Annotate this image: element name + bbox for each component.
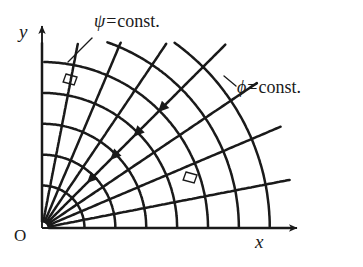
streamline-curve <box>48 127 280 226</box>
equipotential-symbol: ϕ <box>237 77 246 97</box>
flow-net-figure: ψ=const. ϕ=const. y x O <box>0 0 363 267</box>
streamline-curve <box>45 43 121 222</box>
annotation-leader-line <box>224 76 236 86</box>
equipotential-value: const. <box>258 77 301 97</box>
equipotential-curve-group <box>43 42 270 227</box>
streamline-equals-sign: = <box>105 11 117 31</box>
equipotential-label: ϕ=const. <box>237 78 301 96</box>
streamline-symbol: ψ <box>94 11 105 31</box>
x-axis-label: x <box>255 232 263 251</box>
origin-label: O <box>14 227 26 244</box>
y-axis-label: y <box>19 22 27 41</box>
streamline-curve <box>43 44 78 221</box>
streamline-label: ψ=const. <box>94 12 160 30</box>
axis-layer <box>42 26 297 228</box>
annotation-leader-line <box>68 38 92 62</box>
streamline-value: const. <box>117 11 160 31</box>
equipotential-equals-sign: = <box>246 77 258 97</box>
right-angle-marker <box>183 172 197 183</box>
streamline-curve-group <box>42 43 290 228</box>
curve-layer <box>42 42 290 228</box>
flow-net-canvas <box>0 0 363 267</box>
annotation-leader-layer <box>68 38 236 86</box>
streamline-curve <box>46 44 166 223</box>
